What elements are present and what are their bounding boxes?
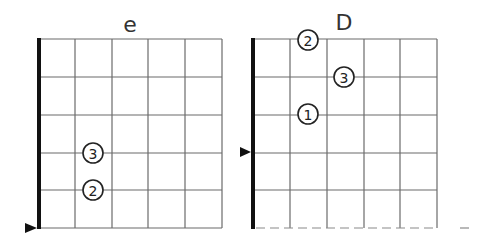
chord-diagrams: e 3 2 D	[0, 0, 477, 246]
svg-text:3: 3	[89, 146, 98, 162]
chord-title-d: D	[336, 10, 353, 35]
fretboard-grid-d	[253, 39, 472, 228]
finger-marker: 1	[298, 104, 318, 124]
svg-text:2: 2	[304, 33, 313, 49]
finger-marker: 3	[83, 143, 103, 163]
svg-text:3: 3	[340, 70, 349, 86]
finger-marker: 2	[298, 30, 318, 50]
finger-marker: 3	[334, 67, 354, 87]
svg-text:2: 2	[89, 183, 98, 199]
chord-diagram-d: D 2 3 1	[240, 10, 472, 229]
chord-diagram-e: e 3 2	[25, 12, 222, 233]
chord-title-e: e	[123, 12, 137, 37]
svg-text:1: 1	[304, 107, 313, 123]
triangle-marker-icon	[25, 223, 37, 233]
triangle-marker-icon	[240, 147, 251, 157]
finger-marker: 2	[83, 180, 103, 200]
fretboard-grid-e	[38, 39, 222, 228]
